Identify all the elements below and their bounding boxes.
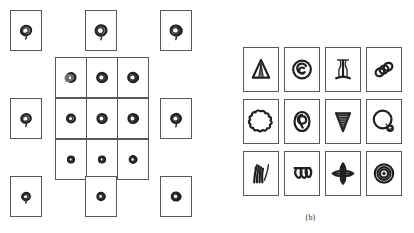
shape-three-rings [366, 47, 402, 92]
disk-tilt-e-icon [118, 58, 148, 97]
pillar-icon [326, 48, 360, 91]
disk-small-a-icon [56, 140, 86, 179]
grass-strokes-icon [244, 152, 278, 195]
disk-tilt-i-icon [161, 99, 191, 138]
disk-tilt-g-icon [87, 99, 117, 138]
disk-view-r1c5 [160, 10, 192, 51]
shape-cloud [243, 99, 279, 144]
disk-view-r5c3 [85, 176, 117, 217]
disk-tilt-k-icon [86, 177, 116, 216]
panel-b: (b) [207, 0, 414, 233]
target-rings-icon [367, 152, 401, 195]
disk-view-r3c4 [117, 98, 149, 139]
disk-tilt-b-icon [86, 11, 116, 50]
disk-view-r2c4 [117, 57, 149, 98]
disk-tilt-j-icon [11, 177, 41, 216]
triple-coil-icon [285, 152, 319, 195]
cloud-icon [244, 100, 278, 143]
disk-view-r3c3 [86, 98, 118, 139]
shape-cone-spiral [325, 99, 361, 144]
disk-view-r2c2 [55, 57, 87, 98]
disk-view-r4c3 [86, 139, 118, 180]
disk-tilt-d-icon [87, 58, 117, 97]
shape-oval-loop [284, 99, 320, 144]
triangle-spike-icon [244, 48, 278, 91]
oval-loop-icon [285, 100, 319, 143]
shape-pillar [325, 47, 361, 92]
cone-spiral-icon [326, 100, 360, 143]
disk-tilt-a-icon [11, 11, 41, 50]
shape-spiral-circle [284, 47, 320, 92]
disk-view-r2c3 [86, 57, 118, 98]
figure-root: (a) (b) [0, 0, 414, 233]
disk-view-r3c1 [10, 98, 42, 139]
four-petal-icon [326, 152, 360, 195]
disk-view-r3c2 [55, 98, 87, 139]
disk-tilt-f-icon [11, 99, 41, 138]
disk-view-r1c1 [10, 10, 42, 51]
disk-view-r5c1 [10, 176, 42, 217]
balloon-icon [367, 100, 401, 143]
disk-tilt-l-icon [161, 177, 191, 216]
disk-tilt-h-icon [118, 99, 148, 138]
spiral-circle-icon [285, 48, 319, 91]
shape-triangle-spike [243, 47, 279, 92]
disk-view-r4c4 [117, 139, 149, 180]
disk-view-r3c5 [160, 98, 192, 139]
shape-triple-coil [284, 151, 320, 196]
disk-view-r4c2 [55, 139, 87, 180]
shape-four-petal [325, 151, 361, 196]
panel-a: (a) [0, 0, 207, 233]
panel-b-caption: (b) [207, 213, 414, 222]
shape-balloon [366, 99, 402, 144]
three-rings-icon [367, 48, 401, 91]
disk-view-r5c5 [160, 176, 192, 217]
shape-target-rings [366, 151, 402, 196]
disk-tilt-c-icon [161, 11, 191, 50]
disk-rings-icon [56, 58, 86, 97]
disk-small-b-icon [87, 140, 117, 179]
disk-view-r1c3 [85, 10, 117, 51]
disk-open-icon [56, 99, 86, 138]
shape-grass-strokes [243, 151, 279, 196]
disk-small-c-icon [118, 140, 148, 179]
